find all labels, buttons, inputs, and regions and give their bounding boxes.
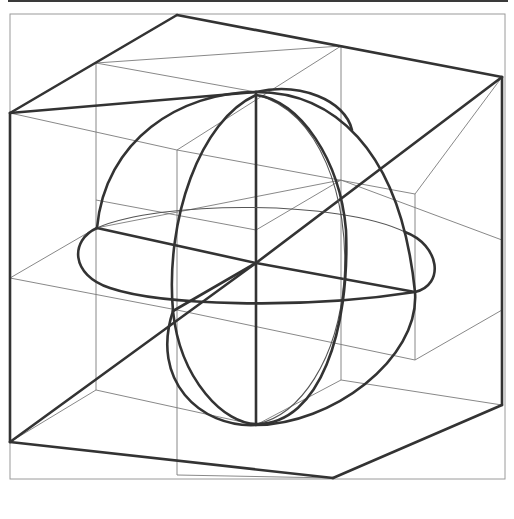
cube-edge (10, 263, 256, 442)
construction-line (177, 46, 341, 150)
cube-outline (10, 15, 502, 478)
sphere-equator-back (97, 207, 405, 232)
top-edge-bar (8, 0, 508, 2)
construction-line (415, 77, 502, 194)
cube-edge (256, 263, 415, 292)
cube-edge (177, 15, 502, 77)
cube-edge (10, 15, 177, 113)
cube-edge (333, 405, 502, 478)
drawing-frame (10, 14, 505, 479)
construction-line (10, 113, 177, 150)
construction-line (10, 278, 177, 310)
sphere-meridian-thin (256, 95, 345, 424)
construction-line (96, 46, 341, 63)
construction-line (256, 180, 341, 230)
construction-line (177, 150, 415, 194)
construction-line (177, 310, 415, 360)
sphere-in-cube-drawing (0, 0, 514, 519)
construction-line (415, 310, 502, 360)
construction-line (341, 180, 502, 240)
construction-line (96, 200, 256, 230)
construction-line (96, 180, 341, 228)
cube-edge (256, 77, 502, 263)
cube-edge (10, 442, 333, 478)
construction-line (96, 63, 256, 92)
construction-line (96, 390, 256, 425)
